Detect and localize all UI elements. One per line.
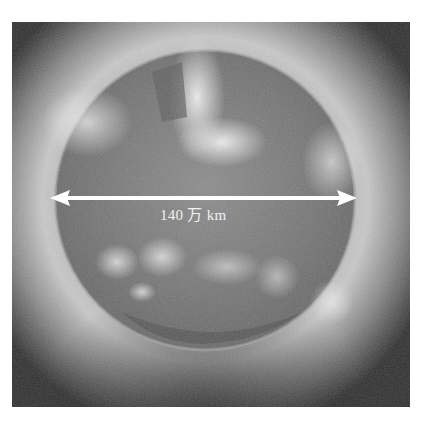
diameter-label: 140 万 km	[160, 203, 227, 224]
